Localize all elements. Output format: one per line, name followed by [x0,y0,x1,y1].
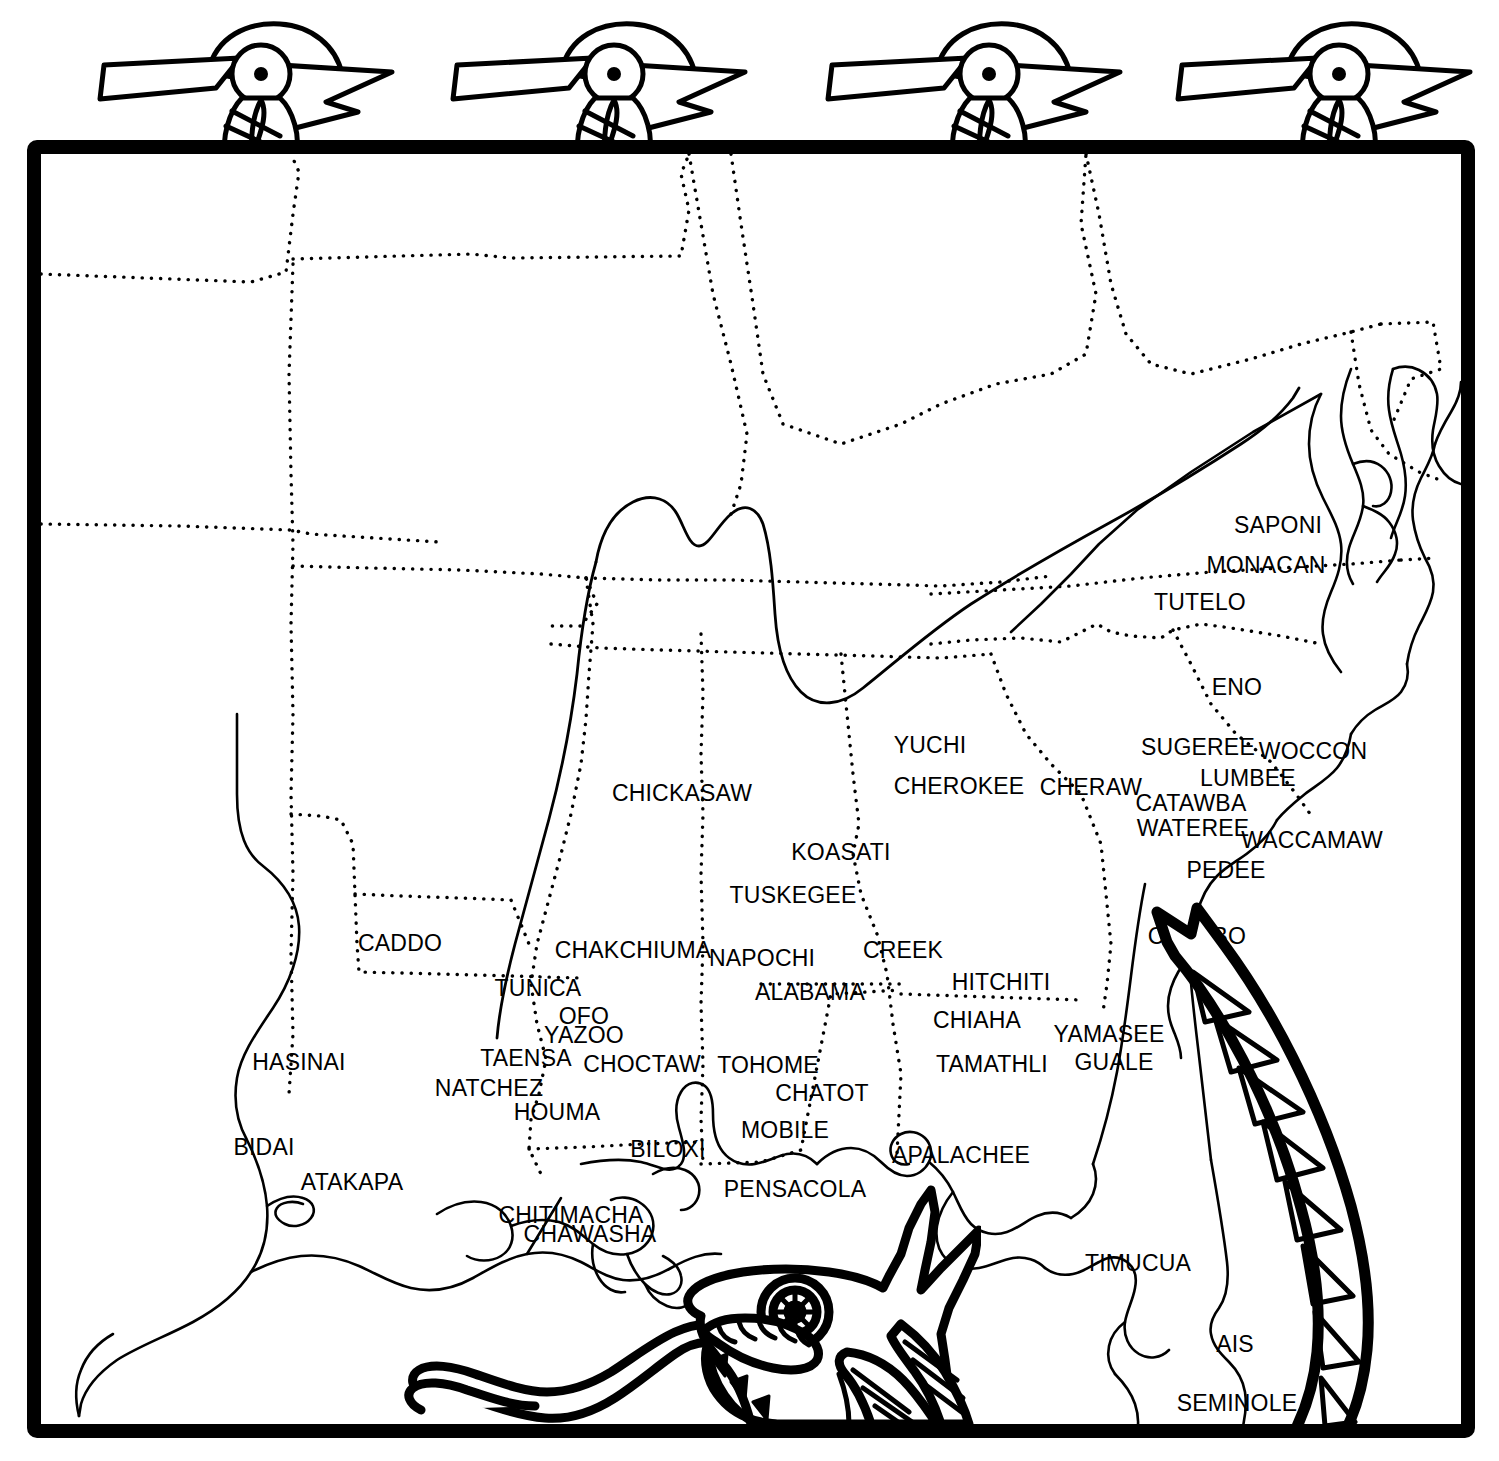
winged-eye-bird-icon [90,16,400,141]
winged-eye-bird-icon [1168,16,1478,141]
winged-eye-bird-icon [443,16,753,141]
winged-eye-bird-icon [818,16,1128,141]
top-motif-row [0,0,1499,145]
uktena-serpent-icon [401,1184,981,1424]
map-frame: SAPONI MONACAN TUTELO ENO YUCHI SUGEREE … [27,140,1475,1438]
map-page: SAPONI MONACAN TUTELO ENO YUCHI SUGEREE … [0,0,1499,1461]
tribe-label: CALUSA [1167,1436,1260,1439]
diamondback-serpent-body-icon [1131,894,1475,1438]
